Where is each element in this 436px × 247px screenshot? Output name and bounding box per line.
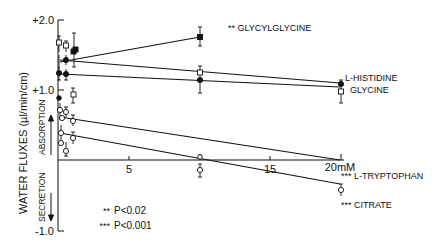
fit-lines bbox=[60, 37, 340, 184]
legend-symbol-2: *** bbox=[99, 221, 110, 231]
marker-tryptophan bbox=[70, 118, 75, 123]
x-tick-15: 15 bbox=[264, 163, 276, 175]
marker-glycine bbox=[338, 81, 343, 86]
label-histidine: L-HISTIDINE bbox=[345, 73, 398, 83]
marker-glycine bbox=[63, 71, 68, 76]
marker-citrate bbox=[338, 187, 343, 192]
label-tryptophan: *** L-TRYPTOPHAN bbox=[341, 171, 423, 181]
label-glycine: GLYCINE bbox=[350, 85, 389, 95]
marker-citrate bbox=[197, 167, 202, 172]
legend-text-1: P<0.02 bbox=[114, 205, 146, 216]
marker-histidine bbox=[71, 92, 76, 97]
marker-citrate bbox=[70, 135, 75, 140]
marker-citrate bbox=[63, 148, 68, 153]
absorption-label: ABSORPTION bbox=[37, 99, 47, 155]
legend-symbol-1: ** bbox=[103, 206, 111, 216]
marker-tryptophan bbox=[57, 107, 62, 112]
x-tick-5: 5 bbox=[126, 163, 132, 175]
label-glycylglycine: ** GLYCYLGLYCINE bbox=[228, 23, 311, 33]
chart: +2.0 +1.0 -1.0 5 15 20mM WATER FLUXES (µ… bbox=[0, 0, 436, 247]
marker-histidine bbox=[339, 89, 344, 94]
marker-glycine bbox=[197, 77, 202, 82]
y-tick-1: +1.0 bbox=[32, 84, 54, 96]
secretion-label: SECRETION bbox=[37, 172, 47, 222]
marker-histidine bbox=[64, 43, 69, 48]
marker-glycylglycine bbox=[198, 35, 203, 40]
markers bbox=[56, 35, 343, 193]
fit-tryptophan bbox=[60, 117, 340, 160]
label-citrate: *** CITRATE bbox=[341, 200, 392, 210]
direction-arrows bbox=[49, 115, 54, 221]
marker-tryptophan bbox=[63, 109, 68, 114]
marker-histidine bbox=[198, 70, 203, 75]
y-axis-label: WATER FLUXES (µl/min/cm) bbox=[17, 72, 29, 214]
marker-glycine bbox=[63, 57, 68, 62]
legend: ** P<0.02 *** P<0.001 bbox=[99, 205, 151, 231]
y-tick-minus1: -1.0 bbox=[35, 225, 54, 237]
marker-citrate bbox=[58, 130, 63, 135]
fit-glycylglycine bbox=[60, 37, 200, 62]
marker-tryptophan bbox=[198, 155, 203, 160]
marker-histidine bbox=[57, 40, 62, 45]
marker-glycine bbox=[56, 70, 61, 75]
y-tick-2: +2.0 bbox=[32, 14, 54, 26]
marker-glycine bbox=[57, 96, 62, 101]
marker-citrate bbox=[58, 140, 63, 145]
marker-glycylglycine bbox=[73, 47, 78, 52]
marker-tryptophan bbox=[59, 115, 64, 120]
legend-text-2: P<0.001 bbox=[114, 220, 152, 231]
